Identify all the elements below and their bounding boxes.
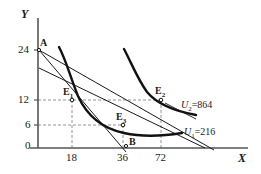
point-marker-a	[37, 48, 40, 51]
point-label-e2-main: E	[155, 85, 162, 96]
point-label-e1-main: E	[63, 86, 70, 97]
point-label-a: A	[40, 38, 47, 48]
y-tick-label-24: 24	[18, 44, 29, 55]
x-tick-label-72: 72	[155, 152, 166, 163]
y-axis-label: Y	[21, 8, 28, 20]
point-label-e2: E2	[155, 86, 165, 99]
curve-annotation-u1: U1=216	[184, 127, 215, 140]
y-tick-label-0: 0	[25, 140, 31, 151]
budget-line-AB	[39, 50, 126, 152]
curve-annotation-u1-value: =216	[195, 126, 216, 137]
point-label-e1: E1	[63, 87, 73, 100]
point-label-e3: E3	[116, 112, 126, 125]
point-marker-b	[124, 144, 127, 147]
curve-annotation-u2: U2=864	[181, 100, 212, 113]
x-tick-label-18: 18	[66, 152, 77, 163]
y-tick-label-12: 12	[18, 94, 29, 105]
point-label-e2-sub: 2	[162, 91, 166, 99]
y-tick-label-6: 6	[25, 119, 31, 130]
point-label-e3-main: E	[116, 111, 123, 122]
point-label-e1-sub: 1	[70, 92, 74, 100]
curve-annotation-u2-value: =864	[192, 99, 213, 110]
point-label-e3-sub: 3	[123, 117, 127, 125]
chart-canvas	[0, 0, 261, 174]
point-label-b: B	[129, 137, 136, 147]
x-tick-label-36: 36	[117, 152, 128, 163]
indifference-curve-chart: Y X 24 12 6 0 18 36 72 A B E1 E2 E3 U2=8…	[0, 0, 261, 174]
x-axis-label: X	[238, 152, 246, 164]
